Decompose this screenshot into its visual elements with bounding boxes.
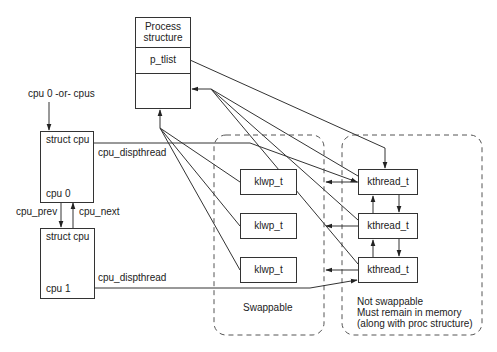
cpu-name: cpu 0 [46,188,70,200]
cpu1-dispthread-label: cpu_dispthread [98,272,166,284]
swappable-label: Swappable [243,302,292,314]
cpu-entry-label: cpu 0 -or- cpus [28,88,95,100]
process-structure-title: Process structure [136,18,190,48]
struct-cpu-0: struct cpu cpu 0 [40,131,94,203]
kthread-box-1: kthread_t [358,169,418,195]
process-structure-box: Process structure p_tlist [135,17,191,109]
cpu-prev-label: cpu_prev [16,206,57,218]
cpu0-dispthread-label: cpu_dispthread [98,147,166,159]
klwp-box-2: klwp_t [240,213,297,239]
kthread-box-2: kthread_t [358,213,418,239]
struct-cpu-1: struct cpu cpu 1 [40,228,95,299]
struct-cpu-header: struct cpu [46,231,89,243]
struct-cpu-header: struct cpu [46,134,89,146]
not-swappable-label: Not swappable Must remain in memory (alo… [357,296,473,329]
p-tlist-field: p_tlist [136,48,190,74]
klwp-box-1: klwp_t [240,169,297,195]
cpu-name: cpu 1 [46,283,70,295]
cpu-next-label: cpu_next [79,206,120,218]
klwp-box-3: klwp_t [240,257,297,283]
kthread-box-3: kthread_t [358,257,418,283]
